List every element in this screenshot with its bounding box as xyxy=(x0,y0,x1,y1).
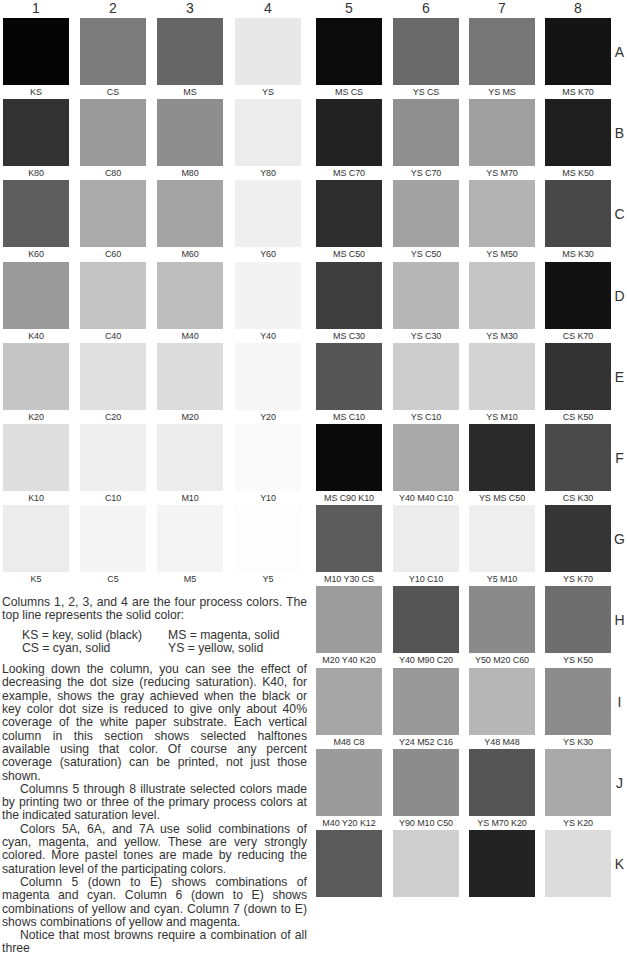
color-swatch xyxy=(393,749,459,816)
color-swatch xyxy=(235,505,301,572)
swatch-label: C80 xyxy=(80,168,146,178)
swatch-cell: Y5 xyxy=(235,505,301,584)
swatch-label: K10 xyxy=(3,493,69,503)
swatch-label: K20 xyxy=(3,412,69,422)
swatch-cell xyxy=(469,830,535,899)
swatch-cell: M20 xyxy=(157,343,223,422)
column-number-1: 1 xyxy=(3,0,69,16)
swatch-cell: YS M50 xyxy=(469,180,535,259)
swatch-cell xyxy=(393,830,459,899)
swatch-label: YS C30 xyxy=(393,331,459,341)
color-swatch xyxy=(157,180,223,247)
color-swatch xyxy=(80,505,146,572)
swatch-cell: Y60 xyxy=(235,180,301,259)
swatch-cell: YS K70 xyxy=(545,505,611,584)
def-ks: KS = key, solid (black) xyxy=(22,629,168,642)
swatch-cell: KS xyxy=(3,18,69,97)
swatch-label: C10 xyxy=(80,493,146,503)
color-swatch xyxy=(80,343,146,410)
swatch-cell: Y20 xyxy=(235,343,301,422)
swatch-cell: CS K50 xyxy=(545,343,611,422)
swatch-label: C5 xyxy=(80,574,146,584)
paragraph-solid-combos: Colors 5A, 6A, and 7A use solid combinat… xyxy=(2,823,307,876)
color-swatch xyxy=(545,424,611,491)
color-swatch xyxy=(469,424,535,491)
color-swatch xyxy=(316,343,382,410)
swatch-label: K5 xyxy=(3,574,69,584)
swatch-cell: Y10 xyxy=(235,424,301,503)
color-swatch xyxy=(3,343,69,410)
swatch-cell: Y40 M90 C20 xyxy=(393,586,459,665)
color-swatch xyxy=(157,343,223,410)
swatch-cell: K40 xyxy=(3,262,69,341)
swatch-label: Y20 xyxy=(235,412,301,422)
swatch-cell: Y24 M52 C16 xyxy=(393,668,459,747)
row-letter-c: C xyxy=(612,206,627,222)
color-swatch xyxy=(469,180,535,247)
swatch-label: YS K30 xyxy=(545,737,611,747)
swatch-label: YS C10 xyxy=(393,412,459,422)
swatch-cell: YS M30 xyxy=(469,262,535,341)
color-swatch xyxy=(316,99,382,166)
color-swatch xyxy=(316,586,382,653)
color-swatch xyxy=(316,180,382,247)
swatch-cell xyxy=(316,830,382,899)
swatch-cell: YS MS C50 xyxy=(469,424,535,503)
swatch-cell: YS C10 xyxy=(393,343,459,422)
swatch-cell: MS K50 xyxy=(545,99,611,178)
swatch-label: Y40 M90 C20 xyxy=(393,655,459,665)
color-swatch xyxy=(545,749,611,816)
swatch-label: MS K30 xyxy=(545,249,611,259)
swatch-label: Y5 xyxy=(235,574,301,584)
swatch-label: M40 xyxy=(157,331,223,341)
color-swatch xyxy=(3,180,69,247)
swatch-cell: C5 xyxy=(80,505,146,584)
color-swatch xyxy=(235,424,301,491)
swatch-cell: K20 xyxy=(3,343,69,422)
color-swatch xyxy=(235,343,301,410)
swatch-cell: YS K50 xyxy=(545,586,611,665)
color-swatch xyxy=(393,99,459,166)
color-swatch xyxy=(316,18,382,85)
row-letter-g: G xyxy=(612,531,627,547)
color-swatch xyxy=(235,180,301,247)
color-swatch xyxy=(545,18,611,85)
paragraph-saturation: Looking down the column, you can see the… xyxy=(2,663,307,783)
swatch-cell: Y40 xyxy=(235,262,301,341)
color-swatch xyxy=(393,343,459,410)
swatch-cell: M80 xyxy=(157,99,223,178)
column-number-6: 6 xyxy=(393,0,459,16)
swatch-label: C40 xyxy=(80,331,146,341)
swatch-label: M48 C8 xyxy=(316,737,382,747)
swatch-cell: M10 Y30 CS xyxy=(316,505,382,584)
swatch-cell: C20 xyxy=(80,343,146,422)
swatch-label: Y40 M40 C10 xyxy=(393,493,459,503)
swatch-label: CS K70 xyxy=(545,331,611,341)
row-letter-f: F xyxy=(612,450,627,466)
row-letter-e: E xyxy=(612,369,627,385)
swatch-label: MS K50 xyxy=(545,168,611,178)
swatch-label: CS xyxy=(80,87,146,97)
swatch-label: M20 Y40 K20 xyxy=(316,655,382,665)
color-swatch xyxy=(3,505,69,572)
row-letter-a: A xyxy=(612,44,627,60)
swatch-label: CS K30 xyxy=(545,493,611,503)
swatch-cell: C60 xyxy=(80,180,146,259)
row-letter-j: J xyxy=(612,775,627,791)
color-swatch xyxy=(157,18,223,85)
color-swatch xyxy=(157,99,223,166)
swatch-label: YS M50 xyxy=(469,249,535,259)
color-swatch xyxy=(80,180,146,247)
swatch-cell: C40 xyxy=(80,262,146,341)
def-ys: YS = yellow, solid xyxy=(168,642,318,655)
color-swatch xyxy=(545,586,611,653)
swatch-cell: M48 C8 xyxy=(316,668,382,747)
swatch-label: K60 xyxy=(3,249,69,259)
color-swatch xyxy=(469,830,535,897)
color-swatch xyxy=(157,424,223,491)
swatch-cell: YS CS xyxy=(393,18,459,97)
swatch-label: MS C10 xyxy=(316,412,382,422)
paragraph-intro: Columns 1, 2, 3, and 4 are the four proc… xyxy=(2,596,307,623)
swatch-cell: Y5 M10 xyxy=(469,505,535,584)
swatch-label: Y40 xyxy=(235,331,301,341)
